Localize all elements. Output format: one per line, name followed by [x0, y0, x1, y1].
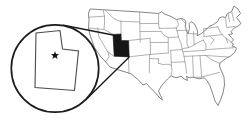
locator-map-svg	[0, 0, 247, 121]
utah-locator-figure	[0, 0, 247, 121]
us-country-outline	[89, 6, 242, 106]
